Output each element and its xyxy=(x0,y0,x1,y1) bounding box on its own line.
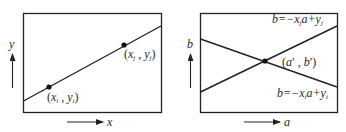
point-j-label: (xj , yj) xyxy=(124,47,156,62)
b-axis-label: b xyxy=(187,37,193,51)
hough-transform-diagram: (xi , yi) (xj , yj) y x (a′ , b′) b=− xyxy=(0,0,346,132)
left-panel-xy-space: (xi , yi) (xj , yj) y x xyxy=(8,14,162,130)
x-axis-label: x xyxy=(106,115,113,129)
intersection-label: (a′ , b′) xyxy=(282,55,316,69)
y-axis-label: y xyxy=(8,37,15,51)
line-i-equation: b=−xia+yi xyxy=(277,86,328,101)
right-panel-ab-space: (a′ , b′) b=−xja+yj b=−xia+yi b a xyxy=(187,12,338,129)
a-axis-label: a xyxy=(284,115,290,129)
line-through-points xyxy=(24,26,162,101)
line-j-equation: b=−xja+yj xyxy=(272,12,323,27)
line-i-falling xyxy=(201,39,338,87)
line-j-rising xyxy=(201,26,338,92)
intersection-dot xyxy=(262,58,267,63)
point-i-dot xyxy=(46,84,51,89)
point-i-label: (xi , yi) xyxy=(47,90,79,105)
